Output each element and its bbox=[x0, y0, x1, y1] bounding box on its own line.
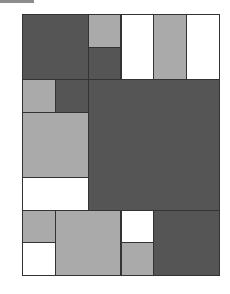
block-dark[interactable] bbox=[88, 79, 220, 211]
block-light[interactable] bbox=[88, 14, 122, 48]
block-white[interactable] bbox=[121, 210, 155, 244]
block-light[interactable] bbox=[22, 210, 56, 244]
block-white[interactable] bbox=[22, 242, 56, 276]
block-light[interactable] bbox=[22, 79, 56, 113]
block-white[interactable] bbox=[186, 14, 220, 80]
block-light[interactable] bbox=[121, 242, 155, 276]
block-white[interactable] bbox=[121, 14, 155, 80]
block-light[interactable] bbox=[153, 14, 187, 80]
top-progress-bar bbox=[0, 0, 34, 3]
puzzle-board bbox=[22, 14, 219, 275]
block-light[interactable] bbox=[22, 112, 89, 178]
block-dark[interactable] bbox=[153, 210, 220, 276]
block-white[interactable] bbox=[22, 177, 89, 211]
block-dark[interactable] bbox=[22, 14, 89, 80]
block-dark[interactable] bbox=[55, 79, 89, 113]
block-dark[interactable] bbox=[88, 47, 122, 81]
block-light[interactable] bbox=[55, 210, 122, 276]
